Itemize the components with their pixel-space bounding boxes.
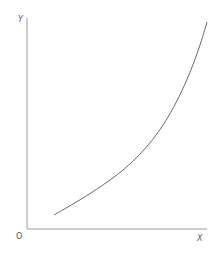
x-axis-label: X: [197, 235, 202, 243]
origin-label: O: [16, 233, 22, 241]
diagram-canvas: [0, 0, 218, 253]
y-axis-label: Y: [18, 16, 23, 24]
diagram-figure: Y O X: [0, 0, 218, 253]
growth-curve: [54, 22, 207, 215]
